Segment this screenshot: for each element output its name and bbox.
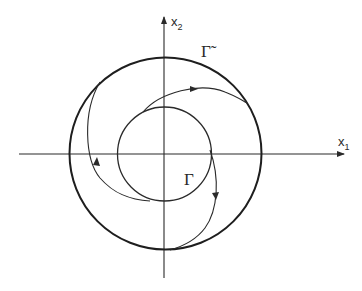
trajectory-right bbox=[170, 150, 216, 250]
trajectory-top bbox=[143, 88, 247, 112]
arrow-right bbox=[212, 192, 219, 200]
diagram-svg bbox=[0, 0, 362, 291]
x1-label-sub: 1 bbox=[345, 142, 350, 152]
x2-label-sub: 2 bbox=[178, 22, 183, 32]
phase-diagram: x2 x1 Γ̃ Γ bbox=[0, 0, 362, 291]
inner-curve-label: Γ bbox=[184, 170, 194, 190]
outer-curve-label: Γ̃ bbox=[201, 42, 211, 62]
arrow-top bbox=[190, 86, 198, 92]
arrow-left bbox=[93, 157, 100, 166]
x2-axis-label: x2 bbox=[171, 14, 183, 32]
x1-axis-label: x1 bbox=[338, 134, 350, 152]
